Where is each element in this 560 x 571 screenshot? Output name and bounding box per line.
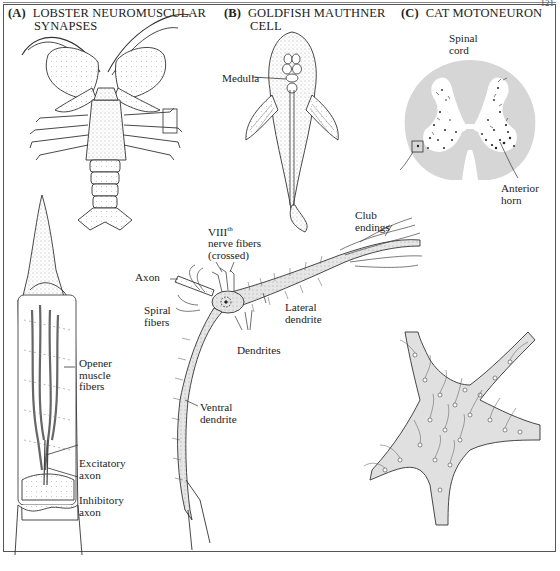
- motoneuron-drawing: [364, 332, 540, 525]
- panel-c-title: (C)CAT MOTONEURON: [401, 7, 542, 20]
- lobster-drawing: [22, 14, 190, 230]
- label-inhibitory-axon: Inhibitory axon: [79, 495, 124, 518]
- label-ventral-dendrite: Ventral dendrite: [200, 402, 237, 425]
- label-viii-nerve-fibers: VIIIth nerve fibers (crossed): [208, 224, 261, 261]
- label-axon: Axon: [135, 272, 160, 284]
- panel-c-title-line1: CAT MOTONEURON: [426, 6, 543, 20]
- label-opener-muscle-fibers: Opener muscle fibers: [79, 358, 112, 393]
- label-club-endings: Club endings: [355, 210, 390, 233]
- panel-a-title: (A)LOBSTER NEUROMUSCULAR SYNAPSES: [8, 7, 206, 33]
- panel-a-letter: (A): [8, 7, 26, 20]
- label-spinal-cord: Spinal cord: [449, 33, 478, 56]
- label-spiral-fibers: Spiral fibers: [144, 305, 171, 328]
- mauthner-cell-drawing: [170, 218, 422, 550]
- label-excitatory-axon: Excitatory axon: [79, 458, 126, 481]
- panel-b-title-line2: CELL: [224, 20, 385, 33]
- panel-a-title-line1: LOBSTER NEUROMUSCULAR: [33, 6, 206, 20]
- panel-b-title-line1: GOLDFISH MAUTHNER: [248, 6, 385, 20]
- panel-a-title-line2: SYNAPSES: [8, 20, 206, 33]
- panel-c-letter: (C): [401, 7, 419, 20]
- figure-artwork: [0, 0, 560, 571]
- goldfish-drawing: [246, 32, 338, 232]
- panel-b-letter: (B): [224, 7, 241, 20]
- label-lateral-dendrite: Lateral dendrite: [285, 302, 322, 325]
- claw-enlargement: [15, 195, 82, 555]
- label-medulla: Medulla: [222, 73, 259, 85]
- panel-b-title: (B)GOLDFISH MAUTHNER CELL: [224, 7, 385, 33]
- spinal-cord-drawing: [400, 60, 535, 180]
- label-anterior-horn: Anterior horn: [501, 183, 539, 206]
- label-dendrites: Dendrites: [237, 345, 281, 357]
